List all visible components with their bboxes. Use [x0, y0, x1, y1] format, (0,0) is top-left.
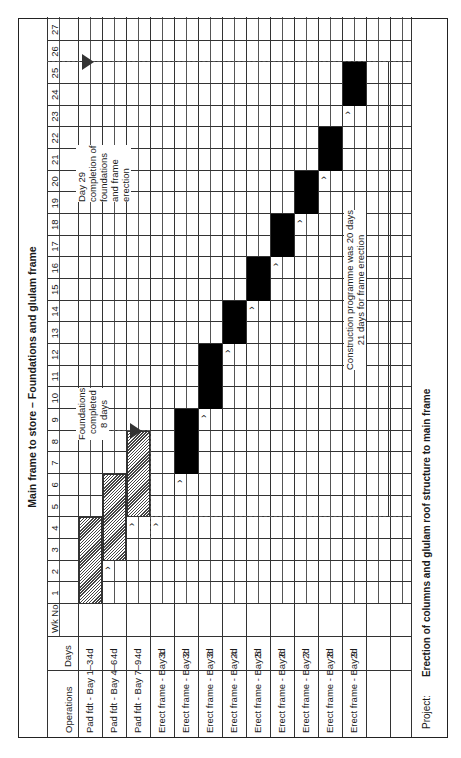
grid-line [174, 17, 175, 737]
week-number: 16 [49, 257, 60, 279]
grid-line [246, 17, 247, 737]
week-number: 21 [49, 149, 60, 171]
week-number: 19 [49, 192, 60, 214]
week-number: 18 [49, 214, 60, 236]
programme-span-line [388, 62, 389, 517]
completion-note: Day 29 completion of foundations and fra… [76, 145, 131, 202]
grid-line [47, 451, 411, 452]
week-number: 20 [49, 171, 60, 193]
week-number: 9 [49, 409, 60, 431]
duration-label: 4d [132, 648, 143, 659]
duration-label: 2d [300, 648, 311, 659]
task-bar [271, 214, 294, 257]
duration-label: 3d [156, 648, 167, 659]
duration-label: 3d [180, 648, 191, 659]
week-number: 4 [49, 517, 60, 539]
duration-label: 2d [324, 648, 335, 659]
week-number: 1 [49, 582, 60, 604]
task-bar [247, 257, 270, 300]
project-line: Project:Erection of columns and glulam r… [421, 389, 432, 729]
grid-line [270, 17, 271, 737]
duration-label: 4d [84, 648, 95, 659]
grid-line [411, 17, 412, 737]
completion-dashed-line [47, 61, 411, 62]
programme-note: Construction programme was 20 days 21 da… [344, 210, 366, 370]
operation-label: Erect frame - Bay 7 [300, 651, 311, 733]
grid-line [102, 17, 103, 737]
operation-label: Erect frame - Bay 6 [276, 651, 287, 733]
week-number: 15 [49, 279, 60, 301]
operation-label: Erect frame - Bay 2 [180, 651, 191, 733]
duration-label: 3d [204, 648, 215, 659]
gantt-sheet: Main frame to store – Foundations and gl… [18, 18, 448, 738]
grid-line [47, 636, 411, 637]
week-number: 17 [49, 236, 60, 258]
dependency-arrow-icon: › [103, 566, 113, 569]
task-bar [127, 431, 150, 518]
dependency-arrow-icon: › [127, 523, 137, 526]
duration-label: 2d [252, 648, 263, 659]
task-bar [343, 62, 366, 105]
grid-line [150, 17, 151, 737]
week-number: 8 [49, 431, 60, 453]
milestone-dashed-line [150, 516, 411, 517]
grid-line [47, 473, 411, 474]
milestone-triangle-icon [82, 54, 94, 70]
chart-title: Main frame to store – Foundations and gl… [26, 17, 38, 737]
week-number: 14 [49, 301, 60, 323]
grid-line [222, 17, 223, 737]
duration-label: 2d [348, 648, 359, 659]
week-number: 27 [49, 19, 60, 41]
operation-label: Pad fdt - Bay 1–3 [84, 660, 95, 733]
dependency-arrow-icon: › [175, 480, 185, 483]
operation-label: Erect frame - Bay 9 [348, 651, 359, 733]
dependency-arrow-icon: › [271, 263, 281, 266]
project-label: Project: [421, 695, 432, 729]
task-bar [79, 517, 102, 604]
grid-line [47, 18, 411, 19]
grid-line [47, 17, 48, 737]
dashed-line [150, 431, 151, 539]
week-number: 11 [49, 366, 60, 388]
week-number: 23 [49, 106, 60, 128]
wk-no-header: Wk No [49, 605, 60, 634]
grid-line [342, 17, 343, 737]
grid-line [47, 495, 411, 496]
foundations-note: Foundations completed 8 days [76, 388, 109, 440]
duration-label: 4d [108, 648, 119, 659]
week-number: 24 [49, 84, 60, 106]
grid-line [318, 17, 319, 737]
week-number: 2 [49, 561, 60, 583]
week-number: 3 [49, 539, 60, 561]
duration-label: 2d [276, 648, 287, 659]
operations-header: Operations [63, 687, 74, 733]
days-header: Days [62, 645, 73, 667]
task-bar [199, 344, 222, 409]
dependency-arrow-icon: › [151, 523, 161, 526]
operation-label: Erect frame - Bay 1 [156, 651, 167, 733]
dependency-arrow-icon: › [295, 220, 305, 223]
week-number: 13 [49, 322, 60, 344]
grid-line [126, 17, 127, 737]
dependency-arrow-icon: › [319, 176, 329, 179]
task-bar [319, 127, 342, 170]
week-number: 10 [49, 387, 60, 409]
grid-line [78, 17, 79, 737]
week-number: 12 [49, 344, 60, 366]
grid-line [47, 126, 411, 127]
task-bar [223, 301, 246, 344]
grid-line [390, 17, 391, 737]
dependency-arrow-icon: › [343, 111, 353, 114]
operation-label: Erect frame - Bay 3 [204, 651, 215, 733]
grid-line [366, 17, 367, 737]
milestone-triangle-icon [130, 423, 142, 439]
week-number: 6 [49, 474, 60, 496]
week-number: 7 [49, 452, 60, 474]
dependency-arrow-icon: › [247, 306, 257, 309]
operation-label: Pad fdt - Bay 4–6 [108, 660, 119, 733]
operation-label: Erect frame - Bay 8 [324, 651, 335, 733]
operation-label: Erect frame - Bay 4 [228, 651, 239, 733]
week-number: 5 [49, 496, 60, 518]
week-number: 26 [49, 41, 60, 63]
operation-label: Pad fdt - Bay 7–9 [132, 660, 143, 733]
